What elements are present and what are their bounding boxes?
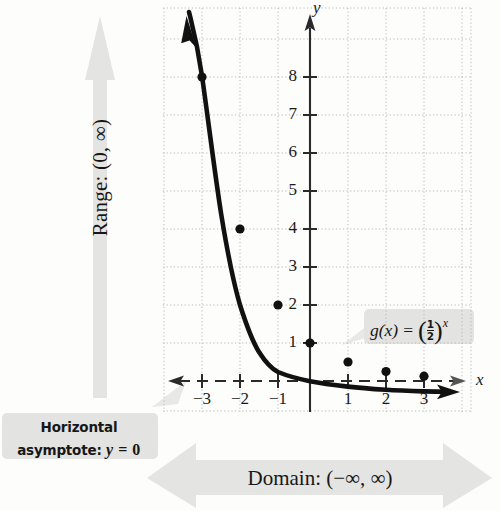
data-point: [343, 357, 352, 366]
y-tick-label: 1: [280, 332, 297, 352]
x-tick-label: −2: [226, 389, 254, 409]
range-text: Range: (0, ∞): [88, 73, 113, 283]
equation-fraction: 12: [427, 319, 434, 343]
x-tick-label: −3: [188, 389, 216, 409]
data-point: [197, 72, 206, 81]
x-tick-label: 3: [413, 389, 435, 409]
asymptote-line-2: y = 0: [106, 441, 141, 458]
y-tick-label: 2: [280, 294, 297, 314]
equation-open-paren: (: [418, 316, 427, 345]
x-tick-label: 1: [337, 389, 359, 409]
asymptote-variable: y: [106, 441, 114, 458]
data-point: [419, 372, 428, 381]
fraction-denominator: 2: [427, 330, 434, 342]
equation-equals: =: [403, 320, 413, 340]
asymptote-value: = 0: [114, 441, 141, 458]
asymptote-annotation-label: Horizontal asymptote: y = 0: [4, 418, 154, 461]
figure-container: −3 −2 −1 1 2 3 1 2 3 4 5 6 7 8 x y Range…: [0, 0, 500, 511]
x-tick-label: 2: [375, 389, 397, 409]
grid-lines: [163, 8, 472, 412]
y-tick-label: 3: [280, 256, 297, 276]
x-axis-label: x: [476, 370, 484, 390]
asymptote-line-1: Horizontal asymptote:: [17, 419, 117, 458]
data-point: [381, 367, 390, 376]
equation-exponent: x: [443, 316, 448, 330]
equation-function-name: g(x): [370, 320, 398, 340]
y-tick-label: 4: [280, 218, 297, 238]
y-axis-label: y: [313, 0, 321, 18]
fraction-numerator: 1: [427, 319, 434, 330]
x-tick-label: −1: [264, 389, 292, 409]
equation-close-paren: ): [434, 316, 443, 345]
y-tick-label: 8: [280, 66, 297, 86]
range-annotation-label: Range: (0, ∞): [88, 156, 113, 200]
y-tick-label: 7: [280, 104, 297, 124]
data-point: [235, 224, 244, 233]
equation-annotation-label: g(x)=(12)x: [370, 313, 448, 344]
y-tick-label: 5: [280, 180, 297, 200]
y-axis: [303, 14, 317, 412]
y-tick-label: 6: [280, 142, 297, 162]
data-point: [305, 338, 314, 347]
domain-annotation-label: Domain: (−∞, ∞): [175, 466, 465, 491]
